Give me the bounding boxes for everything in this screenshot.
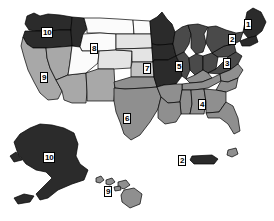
state-colorado bbox=[98, 50, 132, 69]
state-southern-new-england bbox=[240, 36, 258, 46]
us-choropleth-map: 1 2 3 4 5 6 7 8 9 10 10 9 2 bbox=[0, 0, 274, 221]
rank-label-5: 5 bbox=[175, 61, 183, 72]
state-minnesota bbox=[150, 12, 175, 45]
rank-label-9-west: 9 bbox=[40, 72, 48, 83]
state-hawaii-bigisland bbox=[121, 188, 142, 208]
state-montana bbox=[84, 18, 134, 34]
state-hawaii-oahu bbox=[106, 178, 115, 185]
rank-label-7: 7 bbox=[143, 63, 151, 74]
state-wisconsin bbox=[173, 25, 191, 56]
state-new-mexico bbox=[86, 69, 115, 101]
rank-label-6: 6 bbox=[123, 113, 131, 124]
state-hawaii-kauai bbox=[96, 176, 104, 183]
state-south-dakota bbox=[116, 34, 152, 49]
state-mississippi bbox=[180, 90, 192, 114]
territory-puerto-rico bbox=[190, 155, 218, 164]
rank-label-9-hawaii: 9 bbox=[104, 186, 112, 197]
rank-label-2-northeast: 2 bbox=[228, 34, 236, 45]
rank-label-3: 3 bbox=[223, 58, 231, 69]
rank-label-2-puerto-rico: 2 bbox=[178, 155, 186, 166]
state-alaska-aleutians bbox=[14, 194, 34, 204]
territory-virgin-islands bbox=[227, 148, 238, 157]
rank-label-8: 8 bbox=[90, 43, 98, 54]
rank-label-10-northwest: 10 bbox=[41, 27, 53, 38]
rank-label-1: 1 bbox=[244, 19, 252, 30]
rank-label-4: 4 bbox=[198, 99, 206, 110]
state-hawaii-molokai bbox=[114, 186, 121, 191]
state-michigan bbox=[188, 24, 208, 54]
rank-label-10-alaska: 10 bbox=[43, 152, 55, 163]
state-texas bbox=[114, 87, 161, 140]
state-north-dakota bbox=[133, 20, 151, 34]
